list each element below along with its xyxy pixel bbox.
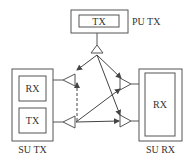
path-pu-to-su-rx-lower xyxy=(97,55,120,115)
su-tx-node: RX TX SU TX xyxy=(12,69,75,155)
pu-tx-antenna-icon xyxy=(91,45,103,53)
su-tx-upper-antenna-icon xyxy=(63,74,75,86)
su-tx-label: SU TX xyxy=(18,144,47,155)
su-tx-outer-box xyxy=(12,69,53,141)
cognitive-radio-diagram: TX PU TX RX TX SU TX RX SU RX xyxy=(0,0,194,163)
su-tx-tx-label: TX xyxy=(26,115,40,126)
signal-paths xyxy=(76,55,121,122)
su-rx-upper-antenna-icon xyxy=(120,78,131,90)
su-rx-inner-label: RX xyxy=(153,99,168,110)
path-su-tx-to-su-rx-lower xyxy=(76,121,119,122)
su-tx-lower-antenna-icon xyxy=(63,116,75,128)
su-rx-node: RX SU RX xyxy=(120,69,182,155)
path-su-tx-to-su-rx-upper xyxy=(76,89,120,122)
pu-tx-inner-label: TX xyxy=(92,16,106,27)
su-tx-rx-label: RX xyxy=(26,83,41,94)
su-rx-label: SU RX xyxy=(146,144,176,155)
pu-tx-node: TX PU TX xyxy=(71,10,161,53)
su-rx-lower-antenna-icon xyxy=(120,115,131,127)
path-pu-to-su-rx-upper xyxy=(97,55,121,78)
path-pu-to-su-tx-rx xyxy=(77,55,97,70)
pu-tx-label: PU TX xyxy=(132,16,161,27)
